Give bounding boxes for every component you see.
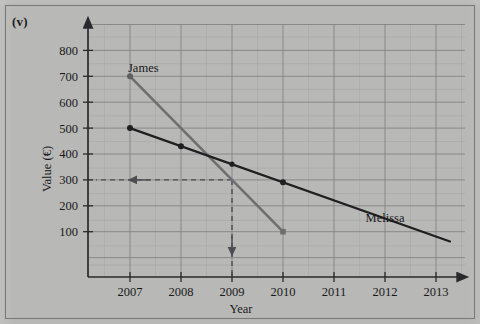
y-tick-label: 200: [59, 199, 78, 213]
x-tick-label: 2011: [322, 285, 347, 299]
line-chart: 800 700 600 500 400 300 200 100 2007 200…: [0, 0, 480, 324]
series-melissa-point-2010: [280, 179, 286, 185]
x-tick-label: 2012: [373, 285, 398, 299]
series-melissa: Melissa: [127, 125, 450, 241]
x-tick-label: 2009: [220, 285, 245, 299]
series-melissa-point-2009: [229, 162, 234, 167]
y-tick-label: 500: [59, 122, 78, 136]
y-tick-label: 600: [59, 96, 78, 110]
y-tick-label: 300: [59, 173, 78, 187]
y-tick-label: 800: [59, 44, 78, 58]
figure-panel: (v): [0, 0, 480, 324]
x-tick-label: 2013: [424, 285, 449, 299]
y-tick-label: 400: [59, 147, 78, 161]
y-tick-labels: 800 700 600 500 400 300 200 100: [59, 44, 78, 239]
series-james-point-2011: [280, 229, 286, 235]
series-melissa-label: Melissa: [366, 211, 405, 225]
x-axis-title: Year: [229, 302, 253, 316]
y-tick-label: 700: [59, 70, 78, 84]
series-james-label: James: [128, 61, 159, 75]
x-tick-label: 2008: [169, 285, 194, 299]
construction-lines: [96, 180, 232, 275]
series-melissa-point-2008: [178, 143, 184, 149]
x-tick-label: 2010: [271, 285, 296, 299]
x-tick-labels: 2007 2008 2009 2010 2011 2012 2013: [118, 285, 449, 299]
y-axis-title: Value (€): [40, 146, 54, 192]
series-melissa-point-2007: [127, 125, 133, 131]
y-tick-label: 100: [59, 225, 78, 239]
x-tick-label: 2007: [118, 285, 143, 299]
